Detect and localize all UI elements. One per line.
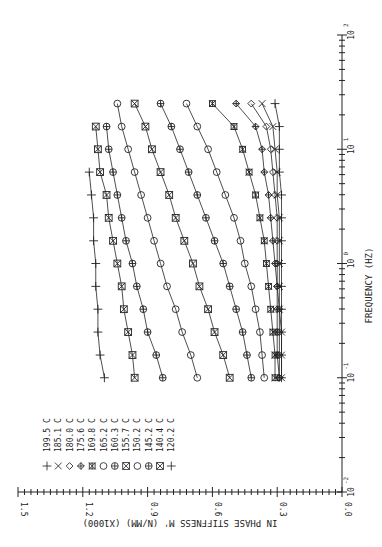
data-series	[85, 168, 109, 382]
legend-entry: 160.3 C	[111, 418, 120, 469]
legend-label: 165.2 C	[100, 418, 109, 452]
frequency-axis-label: FREQUENCY (HZ)	[364, 248, 374, 324]
stiffness-frequency-chart: 10-210-1100101102FREQUENCY (HZ)0.00.30.6…	[0, 0, 382, 547]
legend-label: 120.2 C	[167, 418, 176, 452]
frequency-tick-label: 10	[347, 144, 356, 154]
stiffness-axis-label: IN PHASE STIFFNESS M' (N/MM) (X1000)	[82, 518, 277, 528]
legend-entry: 150.2 C	[133, 418, 142, 469]
legend-entry: 165.2 C	[100, 418, 109, 469]
stiffness-tick-label: 0.9	[149, 502, 158, 517]
frequency-tick-label: 10	[347, 373, 356, 383]
frequency-tick-label: 10	[347, 487, 356, 497]
legend-label: 185.1 C	[54, 418, 63, 452]
legend: 199.5 C185.1 C180.0 C175.6 C169.8 C165.2…	[43, 418, 177, 470]
series-group	[85, 99, 286, 382]
frequency-tick-exponent: -2	[342, 476, 349, 484]
frequency-tick-exponent: -1	[342, 362, 349, 370]
legend-label: 145.2 C	[145, 418, 154, 452]
legend-entry: 120.2 C	[167, 418, 176, 470]
legend-entry: 175.6 C	[77, 418, 86, 469]
legend-entry: 199.5 C	[43, 418, 52, 470]
legend-entry: 155.7 C	[122, 418, 131, 469]
legend-entry: 140.4 C	[156, 418, 165, 469]
legend-entry: 169.8 C	[88, 418, 97, 469]
legend-entry: 185.1 C	[54, 418, 63, 469]
legend-entry: 180.0 C	[66, 418, 75, 469]
stiffness-tick-label: 0.0	[343, 502, 352, 517]
frequency-tick-exponent: 1	[342, 137, 349, 141]
chart-canvas: 10-210-1100101102FREQUENCY (HZ)0.00.30.6…	[0, 0, 382, 547]
legend-label: 175.6 C	[77, 418, 86, 452]
frequency-tick-exponent: 0	[342, 252, 349, 256]
legend-label: 199.5 C	[43, 418, 52, 452]
legend-label: 160.3 C	[111, 418, 120, 452]
frequency-axis: 10-210-1100101102FREQUENCY (HZ)	[337, 23, 374, 497]
frequency-tick-label: 10	[347, 259, 356, 269]
stiffness-tick-label: 0.3	[278, 502, 287, 517]
stiffness-tick-label: 0.6	[213, 502, 222, 517]
stiffness-tick-label: 1.5	[19, 502, 28, 517]
legend-label: 180.0 C	[66, 418, 75, 452]
stiffness-axis: 0.00.30.60.91.21.5IN PHASE STIFFNESS M' …	[18, 487, 352, 528]
legend-label: 140.4 C	[156, 418, 165, 452]
legend-label: 169.8 C	[88, 418, 97, 452]
frequency-tick-exponent: 2	[342, 23, 349, 27]
legend-entry: 145.2 C	[145, 418, 154, 469]
frequency-tick-label: 10	[347, 30, 356, 40]
legend-label: 155.7 C	[122, 418, 131, 452]
legend-label: 150.2 C	[133, 418, 142, 452]
stiffness-tick-label: 1.2	[84, 502, 93, 517]
data-series	[183, 100, 268, 381]
